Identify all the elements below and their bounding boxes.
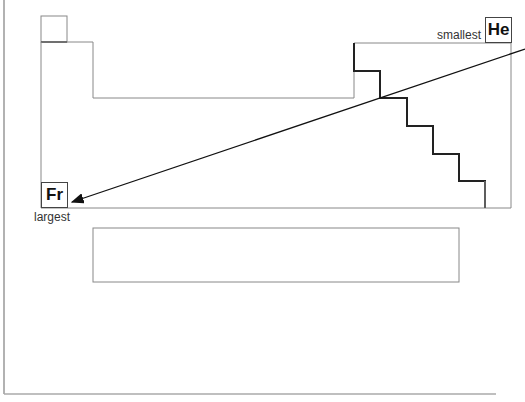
metalloid-staircase (354, 43, 485, 208)
main-table-outline (41, 42, 511, 208)
periodic-table-outline (0, 0, 525, 402)
smallest-label: smallest (437, 28, 481, 42)
francium-cell: Fr (41, 182, 68, 208)
trend-arrow (72, 49, 525, 202)
f-block-outline (93, 228, 459, 282)
largest-label: largest (34, 210, 70, 224)
helium-cell: He (485, 17, 512, 43)
hydrogen-cell (41, 16, 67, 42)
